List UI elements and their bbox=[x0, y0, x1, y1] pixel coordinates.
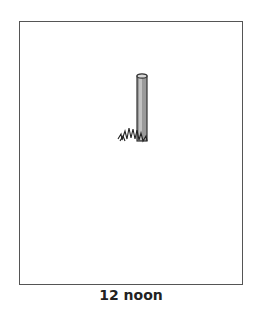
time-caption: 12 noon bbox=[0, 287, 262, 303]
scene-illustration bbox=[0, 0, 262, 315]
stick-icon bbox=[137, 74, 147, 141]
